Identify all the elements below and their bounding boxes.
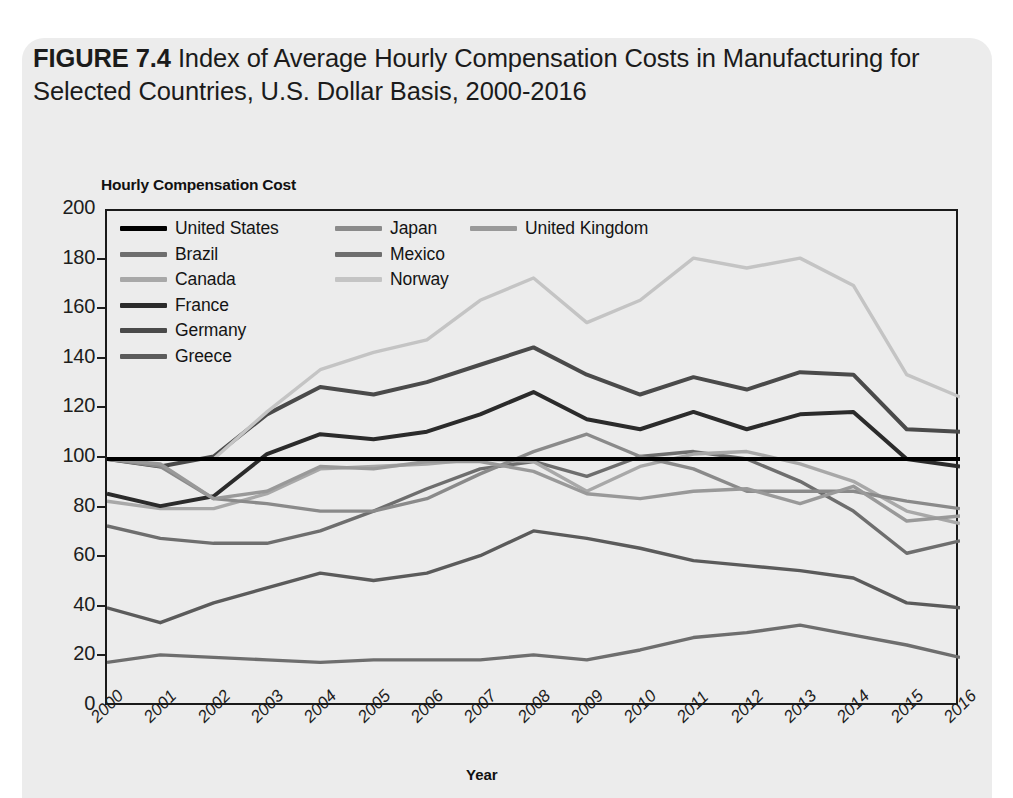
legend-label: Germany [175, 320, 246, 341]
y-tick-label: 160 [37, 295, 95, 318]
legend-swatch-icon [120, 277, 167, 282]
series-line-canada [107, 452, 960, 524]
legend-label: Brazil [175, 244, 218, 265]
y-tick-label: 20 [37, 642, 95, 665]
legend-item-canada[interactable]: Canada [120, 269, 236, 290]
y-tick-label: 140 [37, 345, 95, 368]
legend-item-norway[interactable]: Norway [335, 269, 449, 290]
legend-item-united-kingdom[interactable]: United Kingdom [470, 218, 648, 239]
x-axis-title: Year [466, 766, 498, 783]
legend-row: Germany [120, 320, 590, 346]
legend-swatch-icon [120, 354, 167, 359]
legend-swatch-icon [120, 328, 167, 333]
legend-row: Greece [120, 346, 590, 372]
legend-item-mexico[interactable]: Mexico [335, 244, 445, 265]
y-tick-label: 120 [37, 394, 95, 417]
figure-caption: FIGURE 7.4 Index of Average Hourly Compe… [33, 42, 933, 108]
legend-swatch-icon [470, 226, 517, 231]
legend-row: France [120, 295, 590, 321]
legend-item-germany[interactable]: Germany [120, 320, 246, 341]
legend-label: Greece [175, 346, 232, 367]
legend-swatch-icon [120, 226, 167, 231]
y-tick-label: 80 [37, 494, 95, 517]
legend-label: Mexico [390, 244, 445, 265]
legend-swatch-icon [120, 303, 167, 308]
legend-item-japan[interactable]: Japan [335, 218, 437, 239]
legend-swatch-icon [335, 226, 382, 231]
legend-item-united-states[interactable]: United States [120, 218, 279, 239]
legend-swatch-icon [335, 277, 382, 282]
figure-title-text [171, 44, 178, 72]
legend-label: France [175, 295, 229, 316]
chart-legend: United StatesJapanUnited KingdomBrazilMe… [120, 218, 590, 371]
legend-label: Canada [175, 269, 236, 290]
series-line-france [107, 392, 960, 506]
legend-row: United StatesJapanUnited Kingdom [120, 218, 590, 244]
y-tick-label: 40 [37, 593, 95, 616]
series-line-mexico [107, 625, 960, 662]
legend-row: CanadaNorway [120, 269, 590, 295]
figure-number: FIGURE 7.4 [33, 44, 171, 72]
legend-item-france[interactable]: France [120, 295, 229, 316]
y-axis-title: Hourly Compensation Cost [101, 176, 296, 194]
legend-item-brazil[interactable]: Brazil [120, 244, 218, 265]
legend-label: United Kingdom [525, 218, 648, 239]
legend-swatch-icon [335, 252, 382, 257]
legend-item-greece[interactable]: Greece [120, 346, 232, 367]
legend-label: Japan [390, 218, 437, 239]
legend-label: United States [175, 218, 279, 239]
y-tick-label: 60 [37, 543, 95, 566]
y-tick-label: 100 [37, 444, 95, 467]
legend-swatch-icon [120, 252, 167, 257]
y-tick-label: 180 [37, 246, 95, 269]
legend-label: Norway [390, 269, 449, 290]
y-tick-label: 0 [37, 692, 95, 715]
y-tick-label: 200 [37, 196, 95, 219]
legend-row: BrazilMexico [120, 244, 590, 270]
